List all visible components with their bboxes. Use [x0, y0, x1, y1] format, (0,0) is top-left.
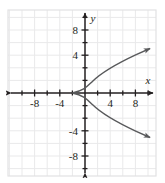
- x-tick-label-8: 8: [133, 97, 139, 109]
- y-tick-label-neg8: -8: [69, 150, 79, 162]
- x-tick-label-neg8: -8: [30, 97, 40, 109]
- y-axis-label: y: [90, 12, 96, 24]
- graph-figure: -8 -4 4 8 8 4 -4 -8 x y: [0, 0, 165, 183]
- y-tick-label-8: 8: [73, 24, 79, 36]
- y-tick-label-neg4: -4: [69, 125, 79, 137]
- x-axis-label: x: [145, 74, 151, 86]
- x-tick-label-neg4: -4: [55, 97, 65, 109]
- x-tick-label-4: 4: [107, 97, 113, 109]
- y-tick-label-4: 4: [73, 49, 79, 61]
- coordinate-plane: -8 -4 4 8 8 4 -4 -8 x y: [0, 0, 165, 183]
